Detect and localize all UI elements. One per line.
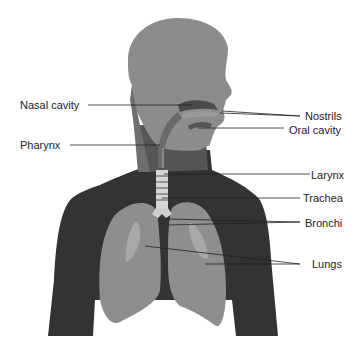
label-lungs: Lungs	[312, 258, 342, 270]
label-nasal-cavity: Nasal cavity	[20, 99, 79, 111]
label-bronchi: Bronchi	[305, 217, 342, 229]
label-trachea: Trachea	[303, 192, 343, 204]
label-pharynx: Pharynx	[20, 139, 60, 151]
label-larynx: Larynx	[311, 169, 344, 181]
label-oral-cavity: Oral cavity	[289, 124, 341, 136]
anatomy-illustration	[0, 0, 361, 350]
respiratory-diagram: Nasal cavity Pharynx Nostrils Oral cavit…	[0, 0, 361, 350]
label-nostrils: Nostrils	[305, 110, 342, 122]
